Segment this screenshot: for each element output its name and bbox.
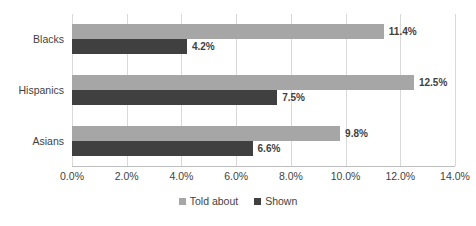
x-tick-label: 14.0%: [425, 170, 476, 182]
x-tick-label: 2.0%: [97, 170, 157, 182]
legend-item[interactable]: Told about: [179, 195, 238, 207]
chart-legend: Told aboutShown: [0, 195, 476, 207]
category-axis-labels: BlacksHispanicsAsians: [0, 14, 476, 166]
x-tick-label: 0.0%: [42, 170, 102, 182]
legend-swatch-icon: [179, 198, 186, 205]
bar-chart: 11.4%4.2%12.5%7.5%9.8%6.6% BlacksHispani…: [0, 0, 476, 226]
category-label-hispanics: Hispanics: [0, 75, 64, 105]
x-tick-label: 8.0%: [261, 170, 321, 182]
legend-item[interactable]: Shown: [254, 195, 297, 207]
x-tick-label: 10.0%: [316, 170, 376, 182]
legend-label: Shown: [265, 195, 297, 207]
x-tick-label: 4.0%: [151, 170, 211, 182]
x-tick-label: 12.0%: [370, 170, 430, 182]
category-axis-line: [72, 166, 455, 167]
category-label-asians: Asians: [0, 126, 64, 156]
legend-swatch-icon: [254, 198, 261, 205]
legend-label: Told about: [190, 195, 238, 207]
category-label-blacks: Blacks: [0, 24, 64, 54]
x-tick-label: 6.0%: [206, 170, 266, 182]
